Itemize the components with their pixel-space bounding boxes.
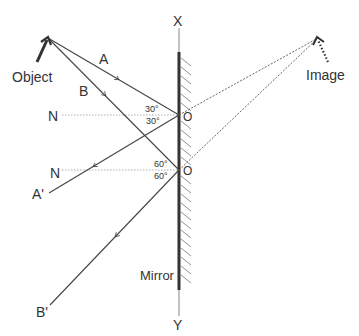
object-label: Object bbox=[12, 69, 53, 85]
image-arrowhead-icon bbox=[313, 37, 324, 45]
mirror-label: Mirror bbox=[140, 268, 175, 283]
reflected-ray-b bbox=[50, 170, 179, 305]
reflected-b-label: B' bbox=[36, 304, 48, 320]
angle-incidence-1: 30° bbox=[145, 104, 159, 114]
angle-incidence-2: 60° bbox=[154, 159, 168, 169]
reflected-ray-a bbox=[49, 115, 179, 193]
ray-a-label: A bbox=[99, 51, 109, 67]
plane-mirror-reflection-diagram: Object Image A B N N A' B' O O X Y Mirro… bbox=[0, 0, 359, 336]
image-label: Image bbox=[306, 67, 345, 83]
point-o1-label: O bbox=[183, 110, 192, 124]
image-arrow bbox=[318, 40, 328, 62]
virtual-ray-2 bbox=[179, 38, 318, 170]
mirror-x-label: X bbox=[173, 13, 183, 29]
mirror-y-label: Y bbox=[173, 317, 183, 333]
reflected-a-label: A' bbox=[32, 186, 44, 202]
point-o2-label: O bbox=[183, 164, 192, 178]
object-arrow bbox=[37, 40, 47, 62]
ray-b-label: B bbox=[79, 83, 88, 99]
angle-reflection-1: 30° bbox=[146, 116, 160, 126]
angle-reflection-2: 60° bbox=[154, 171, 168, 181]
normal-1-label: N bbox=[48, 108, 58, 124]
normal-2-label: N bbox=[50, 165, 60, 181]
